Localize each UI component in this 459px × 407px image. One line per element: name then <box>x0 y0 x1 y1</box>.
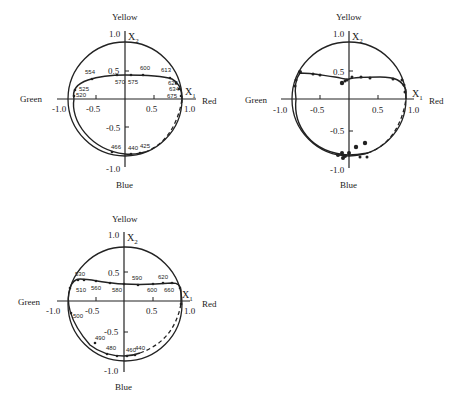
svg-text:-1.0: -1.0 <box>273 105 288 115</box>
data-points <box>294 70 407 160</box>
wl-label: 580 <box>112 287 123 293</box>
label-red: Red <box>202 299 217 309</box>
label-green: Green <box>20 94 42 104</box>
x1-label: X1 <box>412 88 423 102</box>
wl-label: 590 <box>132 275 143 281</box>
wl-label: 440 <box>135 345 146 351</box>
wl-label: 634 <box>169 86 180 92</box>
wl-label: 440 <box>128 145 139 151</box>
svg-text:-1.0: -1.0 <box>104 366 119 376</box>
label-yellow: Yellow <box>336 12 362 22</box>
opponent-color-diagrams: 554 600 613 570 575 525 520 625 634 675 … <box>0 0 459 407</box>
wl-label: 520 <box>76 92 87 98</box>
svg-text:1.0: 1.0 <box>184 306 196 316</box>
wl-label: 510 <box>76 287 87 293</box>
wl-label: 466 <box>111 144 122 150</box>
label-blue: Blue <box>340 180 357 190</box>
svg-text:-0.5: -0.5 <box>104 327 119 337</box>
svg-text:1.0: 1.0 <box>184 104 196 114</box>
wl-label: 480 <box>106 345 117 351</box>
svg-text:0.5: 0.5 <box>108 66 120 76</box>
wl-label: 425 <box>140 143 151 149</box>
wl-label: 600 <box>140 65 151 71</box>
svg-text:1.0: 1.0 <box>108 230 120 240</box>
svg-text:-1.0: -1.0 <box>52 104 67 114</box>
svg-text:0.5: 0.5 <box>333 67 345 77</box>
panel-top-right: Yellow Blue Green Red X1 X2 -1.0 -0.5 0.… <box>245 12 444 190</box>
svg-text:0.5: 0.5 <box>108 268 120 278</box>
svg-text:-1.0: -1.0 <box>106 164 121 174</box>
svg-text:1.0: 1.0 <box>333 29 345 39</box>
label-blue: Blue <box>116 180 133 190</box>
x1-label: X1 <box>185 86 196 100</box>
label-yellow: Yellow <box>112 214 138 224</box>
svg-text:-0.5: -0.5 <box>330 126 345 136</box>
svg-text:-1.0: -1.0 <box>46 306 61 316</box>
unit-circle <box>68 247 182 361</box>
label-red: Red <box>429 96 444 106</box>
label-blue: Blue <box>115 382 132 392</box>
svg-text:-0.5: -0.5 <box>106 123 121 133</box>
panel-top-left: 554 600 613 570 575 525 520 625 634 675 … <box>20 12 217 190</box>
svg-text:-0.5: -0.5 <box>85 306 100 316</box>
svg-text:0.5: 0.5 <box>146 104 158 114</box>
wl-label: 620 <box>158 274 169 280</box>
label-yellow: Yellow <box>112 12 138 22</box>
wl-label: 613 <box>161 67 172 73</box>
svg-text:1.0: 1.0 <box>408 105 420 115</box>
wl-label: 600 <box>147 287 158 293</box>
wl-label: 554 <box>85 69 96 75</box>
label-green: Green <box>18 297 40 307</box>
svg-text:1.0: 1.0 <box>109 29 121 39</box>
wl-label: 570 <box>115 79 126 85</box>
wl-label: 530 <box>75 271 86 277</box>
x2-label: X2 <box>127 232 138 246</box>
wl-label: 675 <box>167 93 178 99</box>
label-green: Green <box>245 95 267 105</box>
svg-text:-1.0: -1.0 <box>330 165 345 175</box>
panel-bottom-left: 530 590 620 510 560 580 600 660 500 490 … <box>18 214 217 392</box>
svg-text:-0.5: -0.5 <box>310 105 325 115</box>
wl-label: 575 <box>128 79 139 85</box>
wl-label: 500 <box>73 313 84 319</box>
wl-label: 660 <box>164 287 175 293</box>
wl-label: 560 <box>91 285 102 291</box>
svg-text:-0.5: -0.5 <box>86 104 101 114</box>
svg-text:0.5: 0.5 <box>372 105 384 115</box>
svg-text:0.5: 0.5 <box>146 306 158 316</box>
label-red: Red <box>202 96 217 106</box>
